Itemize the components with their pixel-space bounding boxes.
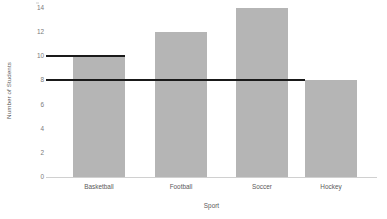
y-tick-label: 12 — [26, 27, 44, 37]
x-axis-title-label: Sport — [204, 202, 219, 209]
y-tick-label: 4 — [26, 124, 44, 134]
x-axis-line — [46, 177, 377, 178]
bar-soccer[interactable] — [236, 8, 288, 177]
y-tick-label: 14 — [26, 3, 44, 13]
x-tick-label-football: Football — [141, 182, 221, 192]
y-axis-ticks: 02468101214 — [22, 8, 44, 177]
y-tick-label: 0 — [26, 172, 44, 182]
reference-line-10 — [46, 55, 125, 57]
x-axis-title: Sport — [46, 202, 377, 209]
reference-line-8 — [46, 79, 305, 81]
x-tick-label-soccer: Soccer — [222, 182, 302, 192]
bar-basketball[interactable] — [73, 56, 125, 177]
y-tick-label: 10 — [26, 51, 44, 61]
bar-hockey[interactable] — [305, 80, 357, 177]
bar-chart: Number of Students 02468101214 Basketbal… — [0, 0, 387, 219]
y-tick-label: 8 — [26, 75, 44, 85]
bar-football[interactable] — [155, 32, 207, 177]
x-tick-label-basketball: Basketball — [59, 182, 139, 192]
y-axis-title: Number of Students — [0, 0, 16, 180]
y-tick-label: 2 — [26, 148, 44, 158]
y-axis-title-label: Number of Students — [5, 62, 12, 119]
x-tick-label-hockey: Hockey — [291, 182, 371, 192]
plot-area — [46, 8, 377, 177]
y-tick-label: 6 — [26, 100, 44, 110]
